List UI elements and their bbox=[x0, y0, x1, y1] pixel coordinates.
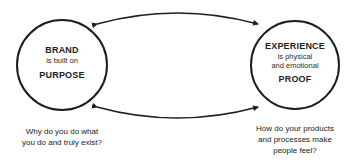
brand-caption-line-2: you do and truly exist? bbox=[12, 137, 112, 148]
experience-footer: PROOF bbox=[251, 74, 339, 84]
experience-caption-line-1: How do your products bbox=[245, 123, 345, 134]
bottom-double-arrow bbox=[97, 107, 258, 118]
brand-title: BRAND bbox=[17, 45, 107, 55]
experience-subtitle: is physical and emotional bbox=[251, 53, 339, 70]
brand-footer: PURPOSE bbox=[17, 70, 107, 80]
experience-caption: How do your products and processes make … bbox=[245, 123, 345, 156]
brand-node: BRAND is built on PURPOSE bbox=[17, 45, 107, 80]
brand-caption: Why do you do what you do and truly exis… bbox=[12, 126, 112, 148]
experience-title: EXPERIENCE bbox=[251, 41, 339, 51]
experience-caption-line-3: people feel? bbox=[245, 145, 345, 156]
experience-node: EXPERIENCE is physical and emotional PRO… bbox=[251, 41, 339, 84]
experience-subtitle-line-2: and emotional bbox=[251, 62, 339, 71]
brand-caption-line-1: Why do you do what bbox=[12, 126, 112, 137]
brand-subtitle: is built on bbox=[17, 57, 107, 66]
experience-caption-line-2: and processes make bbox=[245, 134, 345, 145]
top-double-arrow bbox=[97, 13, 258, 24]
